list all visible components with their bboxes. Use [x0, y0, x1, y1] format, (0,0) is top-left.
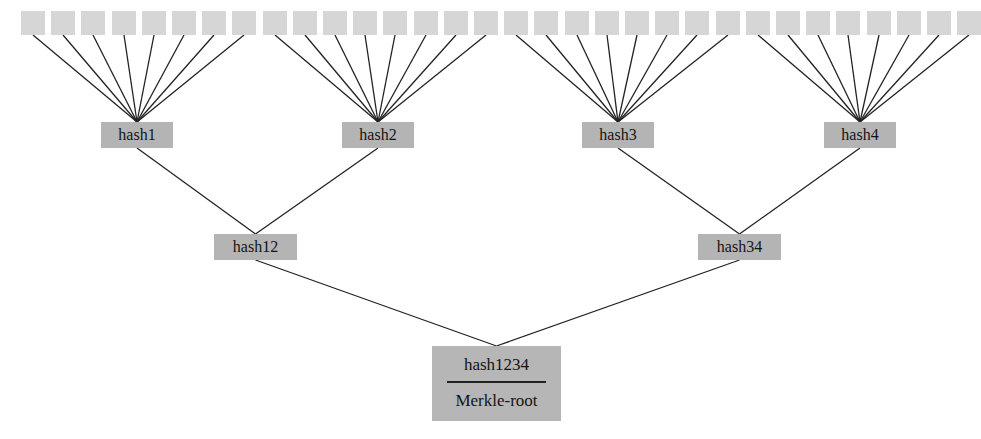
leaf-block [323, 11, 347, 35]
leaf-block [293, 11, 317, 35]
leaf-block [625, 11, 649, 35]
leaf-block [836, 11, 860, 35]
leaf-block [202, 11, 226, 35]
leaf-block [172, 11, 196, 35]
leaf-block [353, 11, 377, 35]
leaf-block [504, 11, 528, 35]
leaf-block [957, 11, 981, 35]
leaf-block [867, 11, 891, 35]
leaf-block [81, 11, 105, 35]
leaf-block [232, 11, 256, 35]
node-hash34: hash34 [698, 234, 781, 260]
leaf-block [534, 11, 558, 35]
node-hash3: hash3 [582, 122, 654, 148]
leaf-block [263, 11, 287, 35]
node-hash4: hash4 [824, 122, 896, 148]
leaf-block [595, 11, 619, 35]
leaf-block [383, 11, 407, 35]
leaf-block [474, 11, 498, 35]
leaf-block [655, 11, 679, 35]
root-divider [447, 381, 546, 383]
leaf-block [806, 11, 830, 35]
leaf-block [746, 11, 770, 35]
node-hash2: hash2 [342, 122, 414, 148]
merkle-tree-diagram: hash1 hash2 hash3 hash4 hash12 hash34 ha… [0, 0, 981, 439]
leaf-block [414, 11, 438, 35]
leaf-block [21, 11, 45, 35]
root-hash-label: hash1234 [464, 355, 529, 375]
leaf-block [685, 11, 709, 35]
root-caption: Merkle-root [455, 391, 537, 411]
leaf-block [927, 11, 951, 35]
leaf-block [444, 11, 468, 35]
leaf-block [142, 11, 166, 35]
node-hash12: hash12 [214, 234, 297, 260]
leaf-block [565, 11, 589, 35]
leaf-block [716, 11, 740, 35]
leaf-block [776, 11, 800, 35]
leaf-block [897, 11, 921, 35]
node-merkle-root: hash1234 Merkle-root [432, 346, 561, 421]
leaf-block [51, 11, 75, 35]
node-hash1: hash1 [101, 122, 173, 148]
leaf-block [112, 11, 136, 35]
